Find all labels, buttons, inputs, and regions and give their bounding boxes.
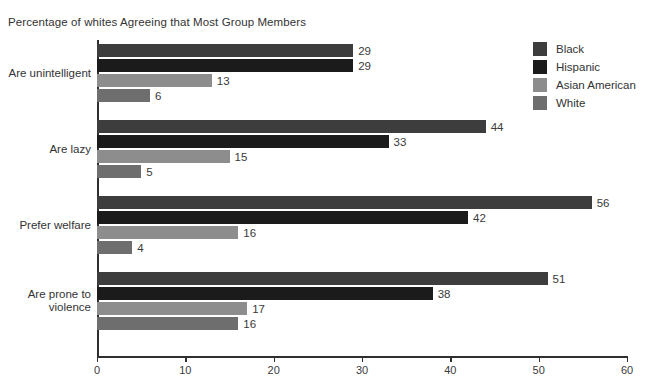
category-label-line: Are unintelligent xyxy=(0,67,91,80)
x-tick-label: 60 xyxy=(621,364,633,376)
bar-value-label: 16 xyxy=(238,318,256,330)
bar[interactable] xyxy=(97,302,247,315)
legend-label: Hispanic xyxy=(556,61,600,73)
bar[interactable] xyxy=(97,226,238,239)
bar-value-label: 29 xyxy=(353,60,371,72)
bar-group: 4433155 xyxy=(97,120,627,178)
x-tick-label: 50 xyxy=(533,364,545,376)
bar[interactable] xyxy=(97,272,548,285)
bar-row: 38 xyxy=(97,287,627,300)
bar[interactable] xyxy=(97,165,141,178)
bar-value-label: 51 xyxy=(548,273,566,285)
bar-value-label: 44 xyxy=(486,121,504,133)
bar-row: 56 xyxy=(97,196,627,209)
x-tick xyxy=(97,356,98,362)
category-label-line: violence xyxy=(0,301,91,314)
legend-label: Asian American xyxy=(556,79,636,91)
x-tick-label: 10 xyxy=(179,364,191,376)
bar-row: 5 xyxy=(97,165,627,178)
legend-swatch-icon xyxy=(533,42,547,56)
bar-row: 16 xyxy=(97,317,627,330)
bar-row: 4 xyxy=(97,241,627,254)
legend-item-black[interactable]: Black xyxy=(533,42,584,56)
legend-label: Black xyxy=(556,43,584,55)
bar-row: 33 xyxy=(97,135,627,148)
x-tick-label: 20 xyxy=(268,364,280,376)
x-tick xyxy=(627,356,628,362)
legend-swatch-icon xyxy=(533,60,547,74)
bar-value-label: 4 xyxy=(132,242,143,254)
bar[interactable] xyxy=(97,317,238,330)
chart-title: Percentage of whites Agreeing that Most … xyxy=(8,16,306,28)
category-label-line: Are prone to xyxy=(0,288,91,301)
x-tick-label: 0 xyxy=(94,364,100,376)
bar-value-label: 56 xyxy=(592,197,610,209)
x-tick xyxy=(185,356,186,362)
category-label: Prefer welfare xyxy=(0,219,91,232)
bar-value-label: 5 xyxy=(141,166,152,178)
category-label: Are unintelligent xyxy=(0,67,91,80)
legend-item-white[interactable]: White xyxy=(533,96,585,110)
bar-row: 51 xyxy=(97,272,627,285)
bar-row: 42 xyxy=(97,211,627,224)
bar-row: 15 xyxy=(97,150,627,163)
bar-value-label: 16 xyxy=(238,227,256,239)
x-tick-label: 40 xyxy=(444,364,456,376)
category-label-line: Prefer welfare xyxy=(0,219,91,232)
x-tick-label: 30 xyxy=(356,364,368,376)
legend-item-hispanic[interactable]: Hispanic xyxy=(533,60,600,74)
bar[interactable] xyxy=(97,135,389,148)
bar[interactable] xyxy=(97,287,433,300)
bar-value-label: 13 xyxy=(212,75,230,87)
category-label: Are lazy xyxy=(0,143,91,156)
legend-item-asian-american[interactable]: Asian American xyxy=(533,78,636,92)
bar-value-label: 6 xyxy=(150,90,161,102)
bar-value-label: 33 xyxy=(389,136,407,148)
x-tick xyxy=(362,356,363,362)
category-label-line: Are lazy xyxy=(0,143,91,156)
bar[interactable] xyxy=(97,120,486,133)
bar-value-label: 17 xyxy=(247,303,265,315)
x-tick xyxy=(450,356,451,362)
bar[interactable] xyxy=(97,241,132,254)
bar[interactable] xyxy=(97,150,230,163)
legend-swatch-icon xyxy=(533,78,547,92)
bar-value-label: 15 xyxy=(230,151,248,163)
bar[interactable] xyxy=(97,211,468,224)
legend-swatch-icon xyxy=(533,96,547,110)
bar-value-label: 29 xyxy=(353,45,371,57)
bar[interactable] xyxy=(97,44,353,57)
bar-value-label: 42 xyxy=(468,212,486,224)
bar-value-label: 38 xyxy=(433,288,451,300)
category-label: Are prone toviolence xyxy=(0,288,91,314)
bar-row: 16 xyxy=(97,226,627,239)
legend-label: White xyxy=(556,97,585,109)
bar-chart: Percentage of whites Agreeing that Most … xyxy=(0,0,646,378)
bar[interactable] xyxy=(97,89,150,102)
bar-group: 5642164 xyxy=(97,196,627,254)
bar-group: 51381716 xyxy=(97,272,627,330)
bar[interactable] xyxy=(97,59,353,72)
bar[interactable] xyxy=(97,196,592,209)
x-tick xyxy=(539,356,540,362)
bar-row: 17 xyxy=(97,302,627,315)
x-tick xyxy=(274,356,275,362)
bar[interactable] xyxy=(97,74,212,87)
bar-row: 44 xyxy=(97,120,627,133)
